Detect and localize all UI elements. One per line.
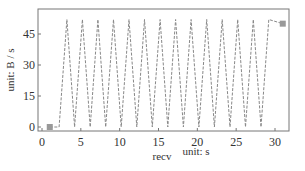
y-tick-label: 45 [23, 27, 35, 41]
y-tick-label: 0 [29, 120, 35, 134]
x-tick-label: 30 [269, 135, 281, 149]
x-tick-label: 5 [78, 135, 84, 149]
y-tick-label: 15 [23, 89, 35, 103]
y-tick-label: 30 [23, 58, 35, 72]
x-unit-label: unit: s [182, 145, 209, 157]
square-marker [280, 21, 286, 27]
x-tick-label: 15 [153, 135, 165, 149]
x-tick-label: 0 [39, 135, 45, 149]
square-marker [47, 124, 53, 130]
data-line [50, 20, 283, 128]
data-markers [47, 21, 286, 130]
x-axis-label: recv [153, 150, 172, 162]
x-tick-label: 25 [230, 135, 242, 149]
x-tick-label: 10 [114, 135, 126, 149]
y-axis-label: unit: B / s [4, 48, 16, 91]
line-chart: 0153045 051015202530 unit: B / s recv un… [0, 0, 305, 171]
